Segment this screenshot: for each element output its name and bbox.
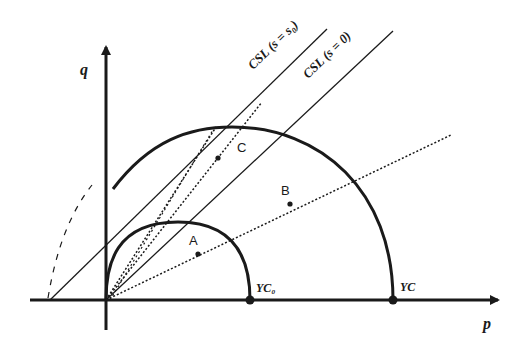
yield-curve-yc [113, 127, 393, 300]
yc0-label: YC₀ [256, 281, 276, 295]
stress-path-c [106, 102, 262, 300]
point-c-label: C [237, 140, 246, 155]
point-c-marker [215, 155, 220, 160]
csl-s0-line [50, 29, 327, 300]
point-b-label: B [281, 183, 290, 198]
yc-label: YC [400, 280, 416, 294]
yield-curve-yc0 [106, 222, 250, 300]
point-b-marker [287, 201, 292, 206]
critical-state-diagram: q p CSL (s = s₀) CSL (s = 0) A B C YC₀ Y… [0, 0, 531, 341]
csl-s0-label: CSL (s = s₀) [245, 17, 301, 72]
q-axis-label: q [80, 61, 88, 79]
point-a-marker [195, 251, 200, 256]
csl-0-line [106, 31, 393, 300]
yc0-marker [246, 296, 255, 305]
csl-0-label: CSL (s = 0) [300, 28, 354, 81]
point-a-label: A [189, 233, 198, 248]
yc-marker [389, 296, 398, 305]
p-axis-label: p [481, 315, 491, 333]
